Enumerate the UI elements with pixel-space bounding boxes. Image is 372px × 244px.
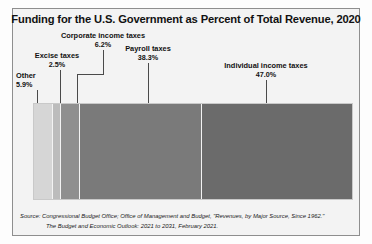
callout-value-individual-income-taxes: 47.0% [216, 71, 316, 79]
bar-segment-corporate-income-taxes [61, 104, 81, 199]
bar-segment-individual-income-taxes [202, 104, 352, 199]
page-title: Funding for the U.S. Government as Perce… [11, 13, 360, 25]
source-note-line-1: Source: Congressional Budget Office; Off… [20, 212, 354, 222]
callout-value-excise-taxes: 2.5% [22, 61, 92, 69]
leader-line-corporate-horizontal [77, 74, 104, 75]
bar-segment-other [34, 104, 53, 199]
bar-segment-payroll-taxes [80, 104, 202, 199]
chart-figure: Funding for the U.S. Government as Perce… [0, 0, 372, 244]
leader-line-excise [60, 70, 61, 103]
source-note-line-2: The Budget and Economic Outlook: 2021 to… [20, 222, 354, 232]
callout-value-other: 5.9% [16, 81, 60, 89]
leader-line-individual [266, 80, 267, 103]
source-note: Source: Congressional Budget Office; Off… [20, 212, 354, 231]
callout-value-payroll-taxes: 38.3% [112, 54, 184, 62]
bar-segment-excise-taxes [53, 104, 61, 199]
callout-payroll-taxes: Payroll taxes 38.3% [112, 45, 184, 62]
leader-line-other [37, 90, 38, 103]
leader-line-payroll [148, 63, 149, 103]
leader-line-corporate-vertical-upper [103, 50, 104, 74]
callout-individual-income-taxes: Individual income taxes 47.0% [216, 62, 316, 79]
callout-excise-taxes: Excise taxes 2.5% [22, 52, 92, 69]
callout-other: Other 5.9% [16, 72, 60, 89]
stacked-bar-chart [33, 103, 353, 200]
chart-title-bar: Funding for the U.S. Government as Perce… [12, 8, 360, 30]
leader-line-corporate-vertical-lower [77, 74, 78, 103]
